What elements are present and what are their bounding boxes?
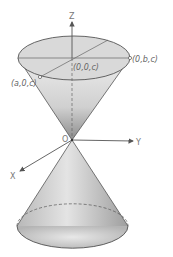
upper-nappe <box>18 36 132 140</box>
y-axis <box>72 140 133 141</box>
label-top-a: (a,0,c) <box>11 79 37 88</box>
y-axis-label: Y <box>135 138 141 147</box>
double-cone-diagram: Z Y X O (0,0,c) (0,b,c) (a,0,c) <box>0 0 173 257</box>
lower-nappe <box>17 140 128 248</box>
x-axis-label: X <box>10 172 16 181</box>
z-axis-label: Z <box>69 12 75 21</box>
point-a-marker <box>38 75 41 78</box>
origin-point <box>71 139 73 141</box>
origin-label: O <box>62 135 68 144</box>
lower-ellipse <box>17 226 128 248</box>
label-top-b: (0,b,c) <box>132 55 158 64</box>
label-top-center: (0,0,c) <box>73 63 99 72</box>
